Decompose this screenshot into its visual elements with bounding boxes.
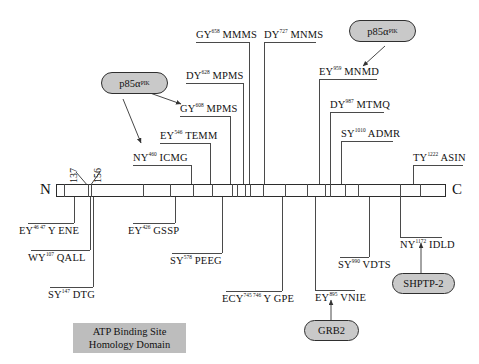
backbone-tick xyxy=(170,184,171,197)
leader-sy578-v xyxy=(222,197,223,253)
backbone-tick xyxy=(358,184,359,197)
p85a-left-superscript: PIK xyxy=(141,80,150,86)
binding-partner-shptp2[interactable]: SHPTP-2 xyxy=(392,273,455,294)
site-label-sy1010-admr: SY1010 ADMR xyxy=(341,128,400,139)
c-terminus-label: C xyxy=(452,182,462,197)
site-label-wy107-qall: WY107 QALL xyxy=(28,252,86,263)
leader-sy578-h xyxy=(172,253,222,254)
leader-sy147-h xyxy=(50,287,93,288)
leader-ey546-v xyxy=(210,143,211,184)
backbone-tick xyxy=(400,184,401,197)
backbone-tick xyxy=(237,184,238,197)
leader-ey46-v xyxy=(74,197,75,223)
site-label-ey895-vnie: EY895 VNIE xyxy=(315,292,366,303)
figure-canvas: N C 137 156 NY460 ICMG EY546 TEMM GY608 … xyxy=(0,0,479,364)
site-label-sy578-peeg: SY578 PEEG xyxy=(170,255,222,266)
site-label-dy987-mtmq: DY987 MTMQ xyxy=(330,99,390,110)
leader-sy990-v xyxy=(369,197,370,257)
site-label-ey4647-yene: EY46 47 Y ENE xyxy=(19,225,79,236)
leader-ny460-h xyxy=(133,165,191,166)
backbone-tick xyxy=(143,184,144,197)
domain-box-line1: ATP Binding Site xyxy=(79,325,180,338)
leader-dy727-v xyxy=(264,42,265,184)
leader-ey895-v xyxy=(315,197,316,290)
leader-dy987-h xyxy=(330,112,384,113)
backbone-marker-156: 156 xyxy=(92,168,103,183)
p85a-right-label: p85α xyxy=(367,26,388,37)
leader-dy628-v xyxy=(243,83,244,184)
leader-wy107-h xyxy=(31,250,90,251)
backbone-tick xyxy=(250,184,251,197)
backbone-tick xyxy=(245,184,246,197)
shptp2-label: SHPTP-2 xyxy=(403,278,443,289)
backbone-tick xyxy=(307,184,308,197)
leader-ey959-h xyxy=(319,79,377,80)
backbone-tick xyxy=(420,184,421,197)
leader-ty1222-h xyxy=(413,165,463,166)
receptor-backbone xyxy=(56,184,446,197)
n-terminus-label: N xyxy=(40,182,51,197)
leader-gy658-v xyxy=(249,42,250,184)
site-label-gy658-mmms: GY658 MMMS xyxy=(196,29,257,40)
atp-binding-site-homology-domain-box: ATP Binding Site Homology Domain xyxy=(73,323,186,353)
leader-ey426-v xyxy=(175,197,176,223)
leader-gy608-h xyxy=(180,116,230,117)
leader-ecy745-v xyxy=(282,197,283,291)
leader-ty1222-v xyxy=(413,165,414,184)
domain-box-line2: Homology Domain xyxy=(79,338,180,351)
backbone-tick xyxy=(345,184,346,197)
p85a-right-superscript: PIK xyxy=(389,28,398,34)
site-label-sy990-vdts: SY990 VDTS xyxy=(338,259,391,270)
backbone-tick xyxy=(64,184,65,197)
leader-ey546-h xyxy=(160,143,210,144)
leader-wy107-v xyxy=(90,197,91,250)
backbone-tick xyxy=(212,184,213,197)
site-label-ey426-gssp: EY426 GSSP xyxy=(128,225,179,236)
backbone-marker-137: 137 xyxy=(68,168,79,183)
leader-ny460-v xyxy=(191,165,192,184)
site-label-sy147-dtg: SY147 DTG xyxy=(48,289,95,300)
leader-dy987-v xyxy=(330,112,331,184)
leader-sy147-v xyxy=(93,197,94,287)
binding-partner-p85a-right[interactable]: p85αPIK xyxy=(349,20,416,42)
binding-partner-p85a-left[interactable]: p85αPIK xyxy=(101,72,168,94)
site-label-dy628-mpms: DY628 MPMS xyxy=(186,70,244,81)
leader-dy727-h xyxy=(264,42,316,43)
arrow-p85a-left-to-ny460 xyxy=(123,99,141,143)
backbone-tick xyxy=(88,184,89,197)
leader-dy628-h xyxy=(186,83,243,84)
arrow-p85a-right-to-ey959 xyxy=(363,46,385,66)
leader-gy608-v xyxy=(230,116,231,184)
site-label-ey959-mnmd: EY959 MNMD xyxy=(319,66,379,77)
leader-ey959-v xyxy=(319,79,320,184)
grb2-label: GRB2 xyxy=(318,325,345,336)
site-label-ty1222-asin: TY1222 ASIN xyxy=(413,152,466,163)
leader-ey426-h xyxy=(133,223,175,224)
backbone-tick xyxy=(285,184,286,197)
site-label-ny1172-idld: NY1172 IDLD xyxy=(400,239,455,250)
backbone-tick xyxy=(325,184,326,197)
backbone-tick xyxy=(232,184,233,197)
backbone-tick xyxy=(91,184,92,197)
leader-ny1172-v xyxy=(400,197,401,237)
backbone-tick xyxy=(193,184,194,197)
leader-gy658-h xyxy=(196,42,249,43)
site-label-ny460-icmg: NY460 ICMG xyxy=(133,152,188,163)
site-label-dy727-mnms: DY727 MNMS xyxy=(264,29,323,40)
site-label-gy608-mpms: GY608 MPMS xyxy=(180,103,238,114)
binding-partner-grb2[interactable]: GRB2 xyxy=(304,320,359,341)
site-label-ecy745746-ygpe: ECY745 746 Y GPE xyxy=(222,293,294,304)
p85a-left-label: p85α xyxy=(119,78,140,89)
backbone-tick xyxy=(263,184,264,197)
site-label-ey546-temm: EY546 TEMM xyxy=(160,130,217,141)
leader-sy1010-h xyxy=(341,141,393,142)
arrow-p85a-left-to-gy608 xyxy=(150,93,181,104)
leader-sy1010-v xyxy=(341,141,342,184)
backbone-tick xyxy=(330,184,331,197)
